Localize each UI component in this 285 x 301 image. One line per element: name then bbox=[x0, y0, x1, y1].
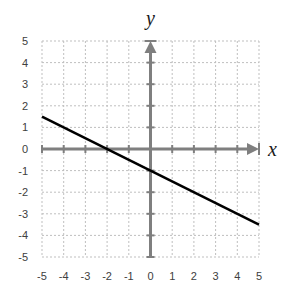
coordinate-plane: -5-4-3-2-1012345 543210-1-2-3-4-5 x y bbox=[0, 0, 285, 301]
x-tick-label: 0 bbox=[147, 270, 153, 282]
y-tick-label: 1 bbox=[22, 121, 28, 133]
y-tick-label: -1 bbox=[18, 165, 28, 177]
y-axis-title: y bbox=[144, 7, 155, 30]
y-tick-labels: 543210-1-2-3-4-5 bbox=[18, 35, 28, 263]
x-tick-label: -4 bbox=[59, 270, 69, 282]
x-tick-label: -1 bbox=[124, 270, 134, 282]
x-tick-label: -2 bbox=[102, 270, 112, 282]
axes bbox=[42, 41, 259, 257]
x-tick-label: 1 bbox=[169, 270, 175, 282]
x-tick-label: -5 bbox=[37, 270, 47, 282]
y-tick-label: -4 bbox=[18, 229, 28, 241]
x-tick-label: 2 bbox=[191, 270, 197, 282]
y-tick-label: 0 bbox=[22, 143, 28, 155]
y-tick-label: 2 bbox=[22, 100, 28, 112]
y-tick-label: -2 bbox=[18, 186, 28, 198]
x-tick-label: 4 bbox=[234, 270, 240, 282]
x-tick-label: -3 bbox=[81, 270, 91, 282]
x-axis-title: x bbox=[267, 138, 277, 160]
x-axis-arrow-icon bbox=[247, 143, 259, 155]
y-tick-label: 4 bbox=[22, 57, 28, 69]
y-tick-label: -5 bbox=[18, 251, 28, 263]
x-tick-label: 5 bbox=[256, 270, 262, 282]
y-tick-label: -3 bbox=[18, 208, 28, 220]
y-tick-label: 5 bbox=[22, 35, 28, 47]
x-tick-label: 3 bbox=[213, 270, 219, 282]
x-tick-labels: -5-4-3-2-1012345 bbox=[37, 270, 262, 282]
y-tick-label: 3 bbox=[22, 78, 28, 90]
y-axis-arrow-icon bbox=[145, 41, 157, 53]
